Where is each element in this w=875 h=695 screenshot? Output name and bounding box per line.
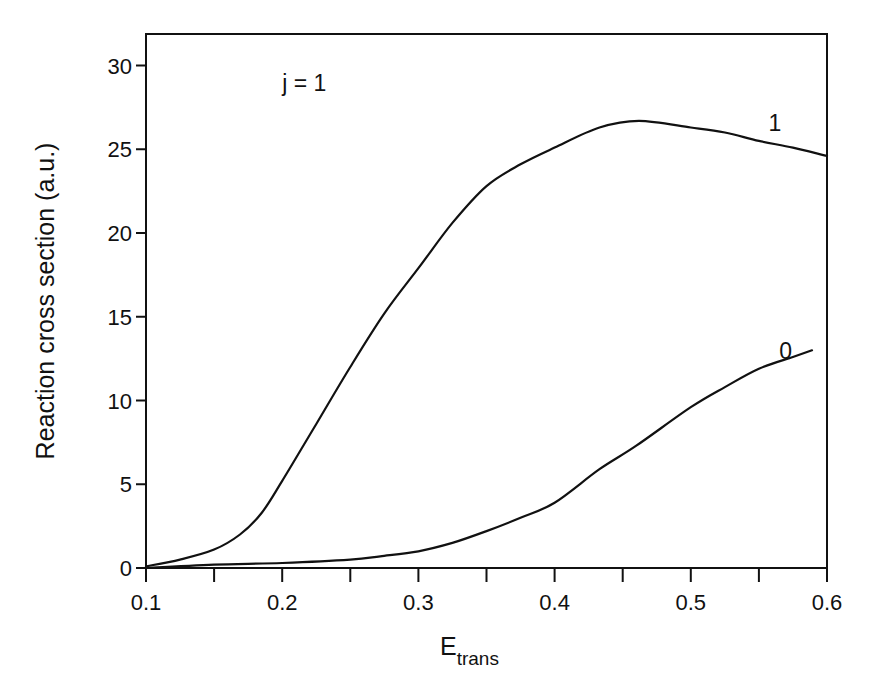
y-axis-title: Reaction cross section (a.u.) — [31, 143, 59, 460]
x-axis-ticks: 0.10.20.30.40.50.6 — [131, 568, 843, 615]
x-tick-label: 0.4 — [539, 590, 570, 615]
x-tick-label: 0.2 — [267, 590, 298, 615]
y-tick-label: 25 — [108, 137, 132, 162]
y-tick-label: 10 — [108, 389, 132, 414]
x-axis-title-subscript: trans — [457, 648, 499, 669]
x-tick-label: 0.5 — [676, 590, 707, 615]
series-line-1 — [146, 121, 827, 567]
plot-frame — [146, 34, 827, 568]
y-tick-label: 5 — [120, 472, 132, 497]
y-axis-ticks: 051015202530 — [108, 54, 146, 582]
line-chart: 051015202530 0.10.20.30.40.50.6 j = 110 … — [0, 0, 875, 695]
x-axis-title-main: E — [440, 632, 457, 660]
curve-label-0: 0 — [779, 338, 792, 364]
series-line-0 — [146, 350, 812, 568]
x-tick-label: 0.1 — [131, 590, 162, 615]
x-axis-title: Etrans — [440, 632, 499, 669]
y-tick-label: 20 — [108, 221, 132, 246]
data-series — [146, 121, 827, 568]
curve-annotations: j = 110 — [281, 70, 792, 364]
x-tick-label: 0.6 — [812, 590, 843, 615]
y-tick-label: 0 — [120, 556, 132, 581]
j-value-annotation: j = 1 — [281, 70, 326, 96]
curve-label-1: 1 — [768, 110, 781, 136]
y-tick-label: 15 — [108, 305, 132, 330]
y-tick-label: 30 — [108, 54, 132, 79]
x-tick-label: 0.3 — [403, 590, 434, 615]
